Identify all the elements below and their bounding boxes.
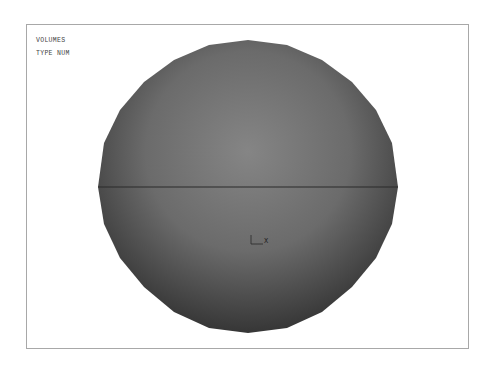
model-canvas[interactable]: X <box>0 0 502 371</box>
